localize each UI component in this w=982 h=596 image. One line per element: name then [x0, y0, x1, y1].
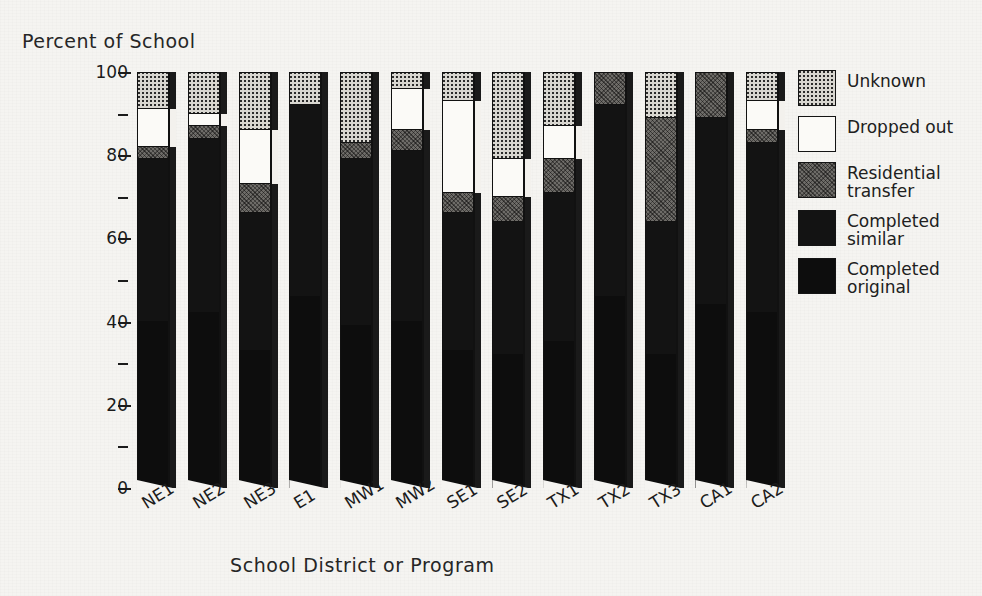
bar-side-segment-residential: [626, 72, 633, 105]
bar-side-segment-original: [372, 326, 379, 488]
bar-ne3[interactable]: [239, 72, 277, 488]
bar-tx3[interactable]: [645, 72, 683, 488]
bar-segment-similar: [747, 142, 777, 313]
bar-segment-original: [493, 354, 523, 487]
bar-segment-similar: [189, 138, 219, 313]
y-axis-label: Percent of School: [22, 30, 195, 52]
bar-se2[interactable]: [492, 72, 530, 488]
legend-item-0[interactable]: Unknown: [798, 70, 978, 106]
bar-ne1[interactable]: [137, 72, 175, 488]
bar-front-face: [137, 72, 169, 488]
bar-side-face: [626, 72, 633, 488]
bar-e1[interactable]: [289, 72, 327, 488]
legend-item-2[interactable]: Residential transfer: [798, 162, 978, 200]
bar-side-segment-residential: [575, 159, 582, 192]
bar-side-segment-similar: [727, 118, 734, 305]
bar-segment-unknown: [646, 72, 676, 117]
bar-side-segment-similar: [169, 159, 176, 321]
bar-segment-unknown: [544, 72, 574, 125]
bar-side-segment-original: [321, 297, 328, 488]
bar-segment-similar: [443, 212, 473, 349]
white-swatch: [798, 116, 836, 152]
bar-front-face: [746, 72, 778, 488]
y-tick-mark: [118, 280, 128, 282]
bar-tx2[interactable]: [594, 72, 632, 488]
bar-segment-similar: [595, 104, 625, 295]
bar-segment-original: [696, 304, 726, 487]
bar-side-segment-unknown: [474, 72, 481, 101]
bar-segment-similar: [392, 150, 422, 321]
bar-segment-similar: [240, 212, 270, 349]
bar-ca1[interactable]: [695, 72, 733, 488]
bar-segment-original: [290, 296, 320, 487]
bar-mw2[interactable]: [391, 72, 429, 488]
bar-side-segment-similar: [778, 143, 785, 314]
bar-segment-original: [595, 296, 625, 487]
bar-side-segment-unknown: [423, 72, 430, 89]
bar-side-segment-unknown: [372, 72, 379, 143]
legend-label: Completed original: [847, 258, 940, 296]
bar-side-segment-residential: [169, 147, 176, 159]
stacked-bar-chart: Percent of School School District or Pro…: [0, 0, 982, 596]
bar-side-segment-dropped: [220, 114, 227, 126]
dotted-gray-swatch: [798, 70, 836, 106]
bar-segment-unknown: [493, 72, 523, 158]
bar-segment-dropped: [138, 108, 168, 145]
bar-side-segment-original: [423, 322, 430, 488]
bar-side-segment-original: [220, 313, 227, 488]
bar-segment-residential: [189, 125, 219, 137]
bar-side-segment-dropped: [423, 89, 430, 131]
bar-side-face: [474, 72, 481, 488]
bar-side-face: [372, 72, 379, 488]
bar-side-segment-residential: [423, 130, 430, 151]
bar-segment-similar: [493, 221, 523, 354]
bar-mw1[interactable]: [340, 72, 378, 488]
bar-front-face: [289, 72, 321, 488]
x-axis-label: School District or Program: [230, 554, 495, 576]
bar-segment-original: [341, 325, 371, 487]
bar-side-face: [727, 72, 734, 488]
legend-item-3[interactable]: Completed similar: [798, 210, 978, 248]
bar-segment-residential: [443, 192, 473, 213]
legend-label: Residential transfer: [847, 162, 941, 200]
bar-segment-unknown: [341, 72, 371, 142]
bar-segment-original: [443, 350, 473, 487]
bar-front-face: [442, 72, 474, 488]
bar-segment-residential: [341, 142, 371, 159]
chart-legend: UnknownDropped outResidential transferCo…: [798, 70, 978, 306]
bar-ca2[interactable]: [746, 72, 784, 488]
bar-side-segment-unknown: [524, 72, 531, 159]
bar-tx1[interactable]: [543, 72, 581, 488]
bar-side-face: [677, 72, 684, 488]
bar-side-face: [271, 72, 278, 488]
bar-side-segment-dropped: [271, 130, 278, 184]
bar-segment-unknown: [240, 72, 270, 129]
y-tick-label: 0: [117, 478, 128, 498]
bar-segment-original: [646, 354, 676, 487]
bar-front-face: [543, 72, 575, 488]
bar-side-face: [220, 72, 227, 488]
legend-item-4[interactable]: Completed original: [798, 258, 978, 296]
bar-segment-dropped: [443, 100, 473, 192]
bar-side-face: [423, 72, 430, 488]
bar-segment-residential: [138, 146, 168, 158]
bar-ne2[interactable]: [188, 72, 226, 488]
y-tick-mark: [118, 363, 128, 365]
bar-side-face: [575, 72, 582, 488]
bar-segment-residential: [544, 158, 574, 191]
bar-side-segment-residential: [271, 184, 278, 213]
bar-segment-original: [544, 341, 574, 487]
textured-gray-swatch: [798, 162, 836, 198]
bar-segment-original: [189, 312, 219, 487]
bar-segment-unknown: [138, 72, 168, 108]
legend-item-1[interactable]: Dropped out: [798, 116, 978, 152]
bar-segment-residential: [493, 196, 523, 221]
bar-side-segment-similar: [271, 213, 278, 350]
bar-se1[interactable]: [442, 72, 480, 488]
y-tick-label: 20: [106, 395, 128, 415]
bar-side-segment-similar: [220, 139, 227, 314]
bar-side-segment-original: [474, 351, 481, 488]
bar-segment-original: [138, 321, 168, 487]
bar-side-face: [778, 72, 785, 488]
bar-side-segment-original: [524, 355, 531, 488]
